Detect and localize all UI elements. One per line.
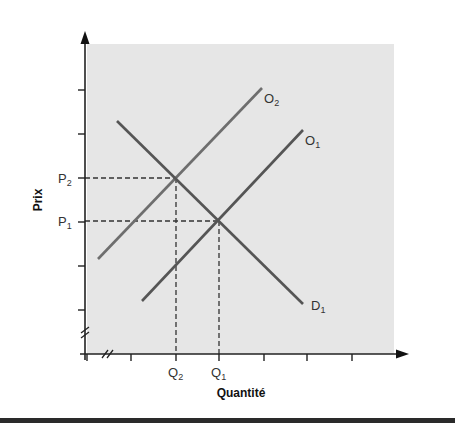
p1-label: P1 [58, 214, 72, 231]
y-axis-arrow-icon [81, 31, 90, 44]
x-axis-ticks [87, 354, 352, 361]
supply-demand-chart: P2 P1 Q2 Q1 O2 O1 D1 Prix Quantité [0, 0, 455, 423]
q1-label: Q1 [211, 365, 226, 382]
q2-label: Q2 [168, 365, 183, 382]
x-axis-arrow-icon [396, 350, 409, 359]
y-axis-title: Prix [31, 188, 45, 211]
y-axis-ticks [78, 90, 85, 310]
p2-label: P2 [58, 171, 72, 188]
bottom-border-bar [0, 418, 455, 423]
x-axis-title: Quantité [217, 386, 266, 400]
plot-panel [87, 44, 394, 354]
